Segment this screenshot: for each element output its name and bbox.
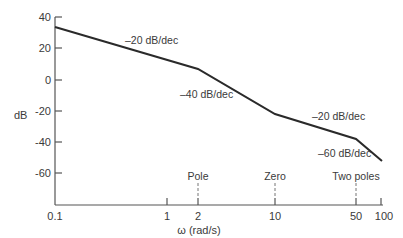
breakpoint-label-pole: Pole	[187, 170, 208, 182]
slope-label: –40 dB/dec	[180, 88, 233, 100]
slope-label: –20 dB/dec	[312, 110, 365, 122]
y-tick-label: -40	[35, 136, 51, 148]
y-tick-label: 20	[39, 42, 51, 54]
breakpoint-label-two-poles: Two poles	[332, 170, 379, 182]
bode-plot: 40 20 0 -20 -40 -60 dB 0.1 1 2 10 50 100…	[0, 0, 403, 238]
x-tick-label: 50	[350, 210, 362, 222]
x-tick-label: 10	[269, 210, 281, 222]
y-tick-label: -20	[35, 105, 51, 117]
x-tick-label: 0.1	[47, 210, 62, 222]
slope-label: –20 dB/dec	[125, 34, 178, 46]
breakpoint-label-zero: Zero	[264, 170, 286, 182]
y-axis-label: dB	[14, 109, 27, 121]
y-tick-label: 0	[45, 74, 51, 86]
y-ticks: 40 20 0 -20 -40 -60	[35, 11, 62, 179]
x-tick-label: 1	[164, 210, 170, 222]
y-tick-label: 40	[39, 11, 51, 23]
x-axis-label: ω (rad/s)	[177, 224, 220, 236]
x-ticks: 0.1 1 2 10 50 100	[47, 198, 393, 222]
x-tick-label: 100	[375, 210, 393, 222]
x-tick-label: 2	[195, 210, 201, 222]
y-tick-label: -60	[35, 167, 51, 179]
breakpoint-markers: Pole Zero Two poles	[187, 170, 379, 198]
slope-label: –60 dB/dec	[318, 147, 371, 159]
